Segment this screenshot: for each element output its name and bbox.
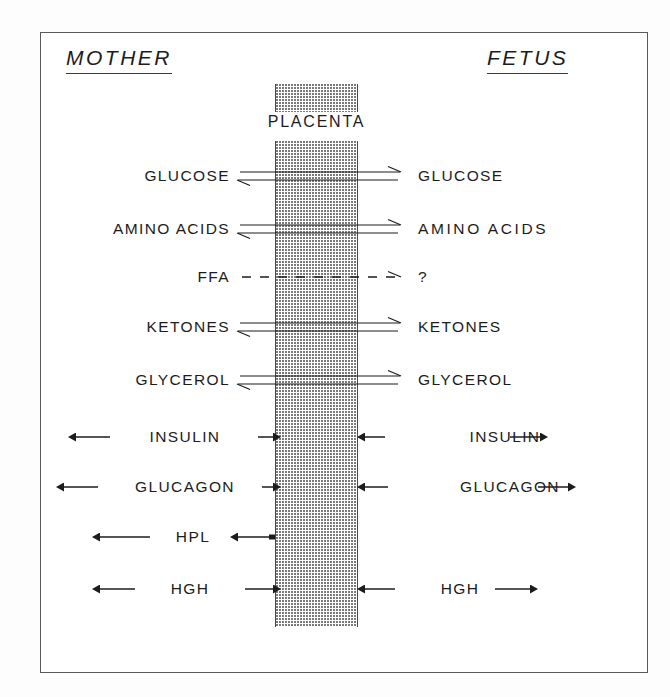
row-ketones-label-fetus: KETONES: [418, 310, 648, 344]
row-hgh-label-fetus: HGH: [405, 572, 515, 606]
row-ffa-label-fetus: ?: [418, 260, 648, 294]
row-hgh: HGH HGH: [40, 572, 648, 606]
heading-mother: MOTHER: [66, 46, 172, 74]
row-amino-acids-label-fetus: AMINO ACIDS: [418, 212, 648, 246]
row-glucose-label-fetus: GLUCOSE: [418, 159, 648, 193]
heading-fetus: FETUS: [487, 46, 568, 74]
row-hpl-arrows: [40, 520, 648, 554]
row-ffa: FFA ?: [40, 260, 648, 294]
placental-exchange-diagram: MOTHER FETUS PLACENTA GLUCOSE GLUCOSE AM…: [0, 0, 670, 697]
row-insulin-label-fetus: INSULIN: [430, 420, 580, 454]
row-glucagon: GLUCAGON GLUCAGON: [40, 470, 648, 504]
placenta-column-top: [275, 84, 358, 112]
row-glycerol-label-fetus: GLYCEROL: [418, 363, 648, 397]
row-insulin: INSULIN INSULIN: [40, 420, 648, 454]
row-hpl: HPL: [40, 520, 648, 554]
row-ketones: KETONES KETONES: [40, 310, 648, 344]
row-glucagon-label-fetus: GLUCAGON: [420, 470, 600, 504]
row-glycerol: GLYCEROL GLYCEROL: [40, 363, 648, 397]
row-hgh-arrows: [40, 572, 648, 606]
row-amino-acids: AMINO ACIDS AMINO ACIDS: [40, 212, 648, 246]
placenta-label: PLACENTA: [255, 113, 378, 131]
row-glucose: GLUCOSE GLUCOSE: [40, 159, 648, 193]
